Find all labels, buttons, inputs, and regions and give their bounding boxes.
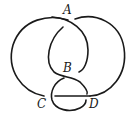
label-b: B	[62, 61, 72, 75]
label-a: A	[62, 3, 72, 17]
label-d: D	[88, 97, 99, 111]
label-c: C	[37, 97, 46, 111]
knot-diagram: A B C D	[0, 0, 135, 124]
